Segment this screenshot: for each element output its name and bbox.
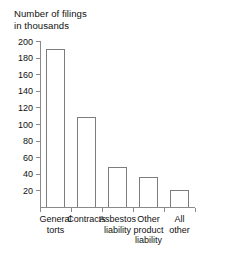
x-tick-2 [102, 208, 103, 212]
x-tick-3 [133, 208, 134, 212]
y-axis-line [40, 41, 41, 208]
y-tick-180: 180 [36, 58, 40, 59]
y-tick-label-140: 140 [18, 87, 33, 96]
y-tick-label-200: 200 [18, 37, 33, 46]
y-tick-label-60: 60 [23, 153, 33, 162]
bar-asbestos-liability [108, 167, 127, 207]
y-tick-160: 160 [36, 74, 40, 75]
y-tick-140: 140 [36, 91, 40, 92]
x-label-all-other: All other [160, 214, 199, 235]
y-tick-label-100: 100 [18, 120, 33, 129]
y-tick-label-180: 180 [18, 54, 33, 63]
y-tick-label-40: 40 [23, 170, 33, 179]
x-axis-line [40, 207, 195, 208]
y-tick-label-80: 80 [23, 137, 33, 146]
bar-all-other [170, 190, 189, 207]
y-tick-120: 120 [36, 107, 40, 108]
y-tick-20: 20 [36, 190, 40, 191]
y-tick-80: 80 [36, 141, 40, 142]
x-tick-4 [164, 208, 165, 212]
y-tick-label-20: 20 [23, 186, 33, 195]
bar-contracts [77, 117, 96, 207]
y-tick-60: 60 [36, 157, 40, 158]
x-tick-1 [71, 208, 72, 212]
y-tick-100: 100 [36, 124, 40, 125]
bar-chart: Number of filings in thousands 200 180 1… [0, 0, 241, 254]
y-tick-label-160: 160 [18, 70, 33, 79]
chart-title: Number of filings in thousands [14, 8, 87, 31]
y-tick-label-120: 120 [18, 103, 33, 112]
bar-general-torts [46, 49, 65, 207]
y-tick-200: 200 [36, 41, 40, 42]
x-tick-5 [195, 208, 196, 212]
bar-other-product-liability [139, 177, 158, 207]
x-tick-0 [40, 208, 41, 212]
y-tick-40: 40 [36, 174, 40, 175]
